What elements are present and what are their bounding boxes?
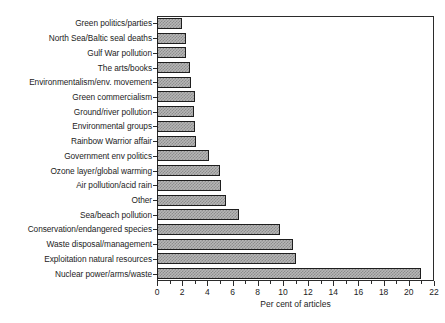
category-label: North Sea/Baltic seal deaths bbox=[0, 33, 152, 43]
x-axis-tick-minor bbox=[220, 281, 221, 284]
bar bbox=[157, 239, 293, 250]
x-axis-tick-minor bbox=[170, 281, 171, 284]
x-axis-tick-label: 10 bbox=[272, 287, 294, 297]
x-axis-tick-major bbox=[258, 281, 259, 286]
category-label: Environmentalism/env. movement bbox=[0, 77, 152, 87]
bar bbox=[157, 253, 296, 264]
bar bbox=[157, 47, 186, 58]
bar bbox=[157, 224, 280, 235]
x-axis-tick-major bbox=[358, 281, 359, 286]
bar bbox=[157, 150, 209, 161]
x-axis-tick-minor bbox=[371, 281, 372, 284]
category-label: Sea/beach pollution bbox=[0, 210, 152, 220]
bar bbox=[157, 91, 195, 102]
bar-series bbox=[157, 16, 434, 281]
x-axis-tick-label: 6 bbox=[222, 287, 244, 297]
x-axis-tick-label: 20 bbox=[398, 287, 420, 297]
x-axis-tick-label: 2 bbox=[171, 287, 193, 297]
x-axis-tick-minor bbox=[270, 281, 271, 284]
x-axis-tick-major bbox=[409, 281, 410, 286]
bar bbox=[157, 106, 194, 117]
category-label: Conservation/endangered species bbox=[0, 224, 152, 234]
category-label: Waste disposal/management bbox=[0, 239, 152, 249]
x-axis-tick-major bbox=[182, 281, 183, 286]
bar bbox=[157, 62, 190, 73]
x-axis-tick-label: 0 bbox=[146, 287, 168, 297]
bar bbox=[157, 18, 182, 29]
category-label: Environmental groups bbox=[0, 121, 152, 131]
category-label: Gulf War pollution bbox=[0, 48, 152, 58]
category-label: Ozone layer/global warming bbox=[0, 166, 152, 176]
category-label: Rainbow Warrior affair bbox=[0, 136, 152, 146]
x-axis-tick-label: 18 bbox=[373, 287, 395, 297]
x-axis-tick-major bbox=[308, 281, 309, 286]
x-axis-tick-minor bbox=[321, 281, 322, 284]
x-axis-tick-minor bbox=[421, 281, 422, 284]
category-label: Nuclear power/arms/waste bbox=[0, 269, 152, 279]
bar bbox=[157, 209, 239, 220]
category-label: Government env politics bbox=[0, 151, 152, 161]
bar bbox=[157, 136, 196, 147]
x-axis-tick-minor bbox=[245, 281, 246, 284]
bar bbox=[157, 195, 226, 206]
category-axis-labels: Green politics/partiesNorth Sea/Baltic s… bbox=[0, 16, 152, 281]
x-axis-tick-label: 14 bbox=[322, 287, 344, 297]
x-axis-tick-major bbox=[434, 281, 435, 286]
x-axis-tick-label: 4 bbox=[196, 287, 218, 297]
category-label: Exploitation natural resources bbox=[0, 254, 152, 264]
bar bbox=[157, 33, 186, 44]
x-axis-tick-major bbox=[283, 281, 284, 286]
bar bbox=[157, 180, 221, 191]
category-label: Air pollution/acid rain bbox=[0, 180, 152, 190]
x-axis-tick-major bbox=[207, 281, 208, 286]
x-axis-tick-minor bbox=[296, 281, 297, 284]
x-axis-tick-label: 12 bbox=[297, 287, 319, 297]
x-axis-tick-major bbox=[233, 281, 234, 286]
x-axis-tick-label: 22 bbox=[423, 287, 445, 297]
category-label: Other bbox=[0, 195, 152, 205]
x-axis-tick-major bbox=[157, 281, 158, 286]
bar bbox=[157, 121, 195, 132]
x-axis-title: Per cent of articles bbox=[157, 299, 434, 309]
category-label: Green commercialism bbox=[0, 92, 152, 102]
category-label: Green politics/parties bbox=[0, 18, 152, 28]
category-label: The arts/books bbox=[0, 63, 152, 73]
bar bbox=[157, 268, 421, 279]
bar bbox=[157, 77, 191, 88]
x-axis-tick-major bbox=[333, 281, 334, 286]
x-axis-tick-minor bbox=[396, 281, 397, 284]
category-label: Ground/river pollution bbox=[0, 107, 152, 117]
x-axis-tick-minor bbox=[195, 281, 196, 284]
x-axis-tick-label: 16 bbox=[347, 287, 369, 297]
x-axis-tick-label: 8 bbox=[247, 287, 269, 297]
x-axis-tick-major bbox=[384, 281, 385, 286]
bar-chart: Green politics/partiesNorth Sea/Baltic s… bbox=[0, 0, 445, 323]
bar bbox=[157, 165, 220, 176]
x-axis-tick-minor bbox=[346, 281, 347, 284]
